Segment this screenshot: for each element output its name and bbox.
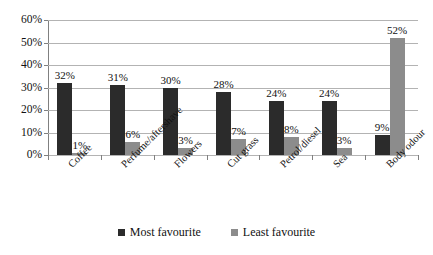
bar-value-label: 7%	[224, 126, 253, 137]
plot-area: 32%1%31%6%30%3%28%7%24%8%24%3%9%52%	[48, 20, 418, 155]
bar-chart: 0%10%20%30%40%50%60% 32%1%31%6%30%3%28%7…	[0, 0, 433, 255]
bar-most-favourite	[375, 135, 390, 155]
bar-value-label: 31%	[103, 72, 132, 83]
legend-swatch-icon	[118, 229, 125, 236]
bar-value-label: 52%	[383, 25, 412, 36]
legend-label: Least favourite	[243, 226, 315, 238]
bar-most-favourite	[322, 101, 337, 155]
x-tick-mark	[48, 155, 49, 160]
x-tick-mark	[101, 155, 102, 160]
bar-most-favourite	[216, 92, 231, 155]
gridline	[48, 43, 418, 44]
y-tick-label: 60%	[2, 14, 42, 25]
legend-label: Most favourite	[130, 226, 201, 238]
y-tick-label: 0%	[2, 149, 42, 160]
bar-least-favourite	[390, 38, 405, 155]
x-tick-mark	[154, 155, 155, 160]
y-tick-label: 50%	[2, 37, 42, 48]
legend-item: Least favourite	[231, 226, 315, 238]
bar-value-label: 24%	[315, 88, 344, 99]
y-tick-label: 20%	[2, 104, 42, 115]
gridline	[48, 110, 418, 111]
bar-value-label: 32%	[50, 70, 79, 81]
x-tick-mark	[365, 155, 366, 160]
legend-item: Most favourite	[118, 226, 201, 238]
x-tick-mark	[418, 155, 419, 160]
x-tick-mark	[259, 155, 260, 160]
bar-value-label: 8%	[277, 124, 306, 135]
y-tick-label: 10%	[2, 127, 42, 138]
y-tick-label: 30%	[2, 82, 42, 93]
bar-value-label: 24%	[262, 88, 291, 99]
chart-legend: Most favouriteLeast favourite	[0, 226, 433, 238]
bar-value-label: 28%	[209, 79, 238, 90]
gridline	[48, 20, 418, 21]
y-tick-label: 40%	[2, 59, 42, 70]
x-tick-mark	[207, 155, 208, 160]
bar-value-label: 30%	[156, 75, 185, 86]
legend-swatch-icon	[231, 229, 238, 236]
bar-most-favourite	[110, 85, 125, 155]
bar-value-label: 3%	[330, 135, 359, 146]
x-tick-mark	[312, 155, 313, 160]
gridline	[48, 65, 418, 66]
